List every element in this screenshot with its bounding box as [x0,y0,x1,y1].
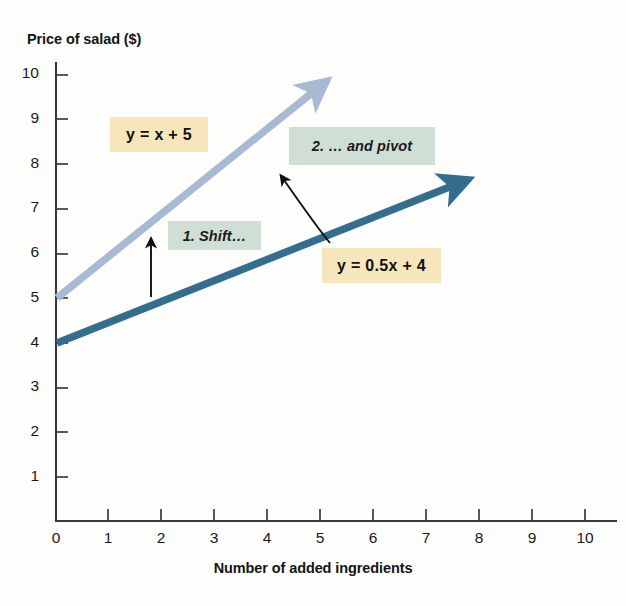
pivot-arrow-icon [284,180,330,243]
annotation-step-shift: 1. Shift… [168,221,261,250]
annotation-equation-original: y = 0.5x + 4 [322,248,441,283]
y-axis-ticks [56,75,68,477]
plot-area [0,0,626,606]
annotation-step-pivot: 2. … and pivot [289,127,435,165]
chart-figure: Price of salad ($) Number of added ingre… [0,0,626,606]
x-axis-ticks [108,509,585,521]
annotation-equation-shifted: y = x + 5 [110,117,208,152]
